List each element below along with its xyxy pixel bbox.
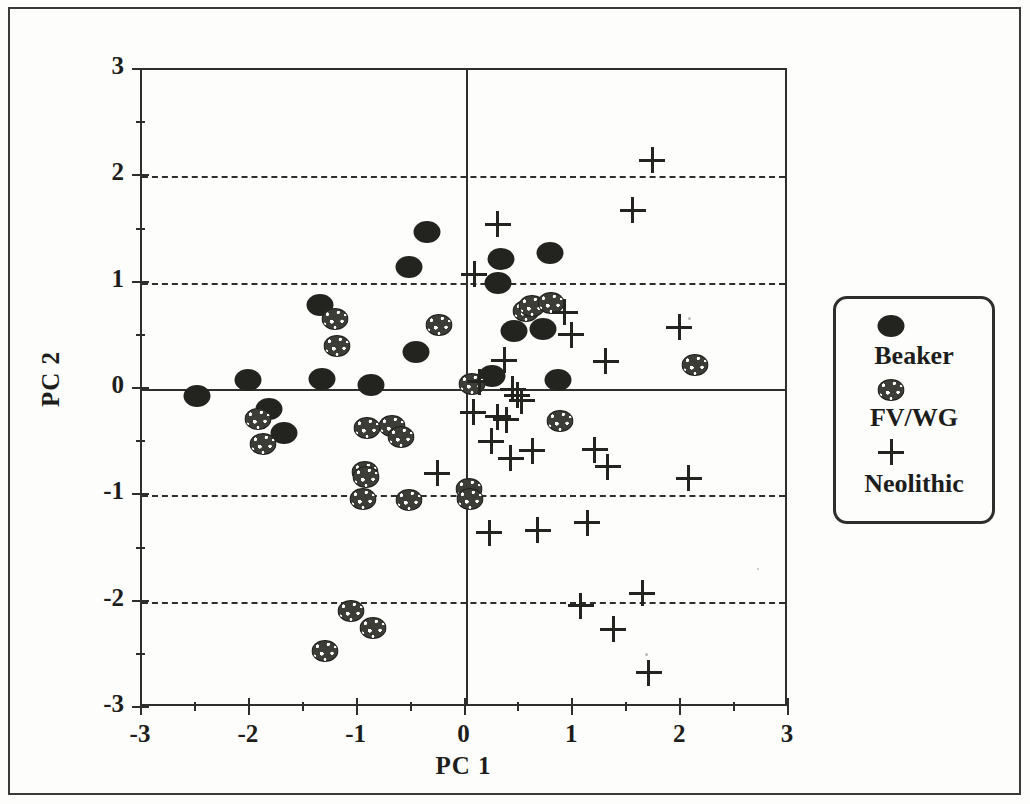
- data-point-fv-wg: [396, 489, 423, 511]
- data-point-fv-wg: [387, 426, 414, 448]
- y-tick-label: 0: [112, 371, 125, 399]
- data-point-fv-wg: [249, 433, 276, 455]
- data-point-neolithic: [639, 147, 665, 173]
- scan-speck: [645, 653, 648, 656]
- data-point-fv-wg: [425, 314, 452, 336]
- data-point-fv-wg: [354, 417, 381, 439]
- x-tick-label: -3: [110, 720, 170, 748]
- y-tick-label: 1: [112, 265, 125, 293]
- data-point-fv-wg: [312, 640, 339, 662]
- data-point-neolithic: [476, 520, 502, 546]
- data-point-beaker: [234, 369, 261, 391]
- data-point-neolithic: [485, 211, 511, 237]
- data-point-neolithic: [568, 593, 594, 619]
- legend-marker-neolithic: [876, 439, 906, 465]
- data-point-fv-wg: [245, 408, 272, 430]
- data-point-beaker: [488, 248, 515, 270]
- x-axis-label: PC 1: [140, 752, 787, 780]
- data-point-beaker: [484, 272, 511, 294]
- data-point-beaker: [402, 341, 429, 363]
- x-tick-label: 2: [649, 720, 709, 748]
- data-point-beaker: [396, 256, 423, 278]
- data-point-neolithic: [467, 369, 493, 395]
- data-point-neolithic: [574, 510, 600, 536]
- data-point-fv-wg: [353, 466, 380, 488]
- scan-speck: [757, 568, 759, 570]
- gridline-y-2: [142, 176, 785, 178]
- data-point-fv-wg: [456, 488, 483, 510]
- data-point-beaker: [309, 368, 336, 390]
- x-tick: [787, 698, 789, 715]
- x-tick-label: -2: [218, 720, 278, 748]
- scan-speck: [688, 317, 691, 320]
- stippled-ellipse-icon: [878, 379, 905, 401]
- y-axis-label: PC 2: [37, 319, 65, 439]
- legend-box: Beaker FV/WG Neolithic: [833, 296, 995, 524]
- x-tick-label: 1: [541, 720, 601, 748]
- legend-marker-beaker: [876, 313, 906, 339]
- data-point-neolithic: [595, 454, 621, 480]
- data-point-beaker: [501, 320, 528, 342]
- data-point-fv-wg: [322, 308, 349, 330]
- data-point-neolithic: [629, 580, 655, 606]
- data-point-neolithic: [525, 517, 551, 543]
- y-tick-label: -1: [103, 477, 124, 505]
- data-point-fv-wg: [359, 617, 386, 639]
- legend-label-neolithic: Neolithic: [836, 469, 992, 499]
- legend-marker-fvwg: [876, 377, 906, 403]
- x-tick-label: 3: [757, 720, 817, 748]
- y-tick-label: -3: [103, 690, 124, 718]
- y-tick-label: 2: [112, 158, 125, 186]
- data-point-fv-wg: [547, 410, 574, 432]
- data-point-neolithic: [461, 261, 487, 287]
- data-point-neolithic: [491, 347, 517, 373]
- data-point-neolithic: [593, 348, 619, 374]
- data-point-beaker: [536, 242, 563, 264]
- data-point-beaker: [545, 369, 572, 391]
- y-tick-label: -2: [103, 584, 124, 612]
- data-point-beaker: [183, 385, 210, 407]
- gridline-y--2: [142, 602, 785, 604]
- data-point-fv-wg: [682, 354, 709, 376]
- data-point-beaker: [357, 374, 384, 396]
- data-point-neolithic: [636, 660, 662, 686]
- data-point-fv-wg: [324, 335, 351, 357]
- data-point-neolithic: [424, 460, 450, 486]
- figure-root: PC 2 PC 1 3210-1-2-3-3-2-10123 Beaker FV…: [0, 0, 1030, 804]
- filled-ellipse-icon: [878, 315, 905, 337]
- plus-icon: [878, 439, 904, 465]
- plot-area: [140, 68, 787, 706]
- data-point-neolithic: [600, 616, 626, 642]
- data-point-fv-wg: [338, 600, 365, 622]
- data-point-neolithic: [620, 197, 646, 223]
- data-point-neolithic: [519, 438, 545, 464]
- legend-label-beaker: Beaker: [836, 341, 992, 371]
- data-point-fv-wg: [350, 488, 377, 510]
- data-point-neolithic: [558, 322, 584, 348]
- y-tick-label: 3: [112, 52, 125, 80]
- data-point-neolithic: [676, 465, 702, 491]
- data-point-neolithic: [460, 399, 486, 425]
- legend-label-fvwg: FV/WG: [836, 403, 992, 433]
- x-tick-label: -1: [326, 720, 386, 748]
- x-tick-label: 0: [434, 720, 494, 748]
- data-point-beaker: [413, 221, 440, 243]
